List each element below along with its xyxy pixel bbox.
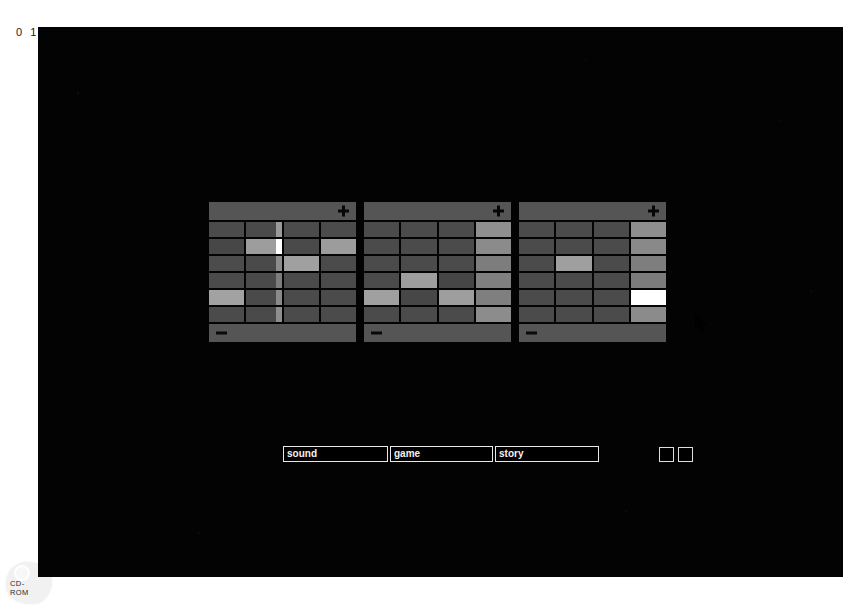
grid-cell[interactable] — [401, 290, 436, 305]
grid-cell[interactable] — [321, 256, 356, 271]
grid-cell[interactable] — [321, 307, 356, 322]
grid-cell[interactable] — [209, 273, 244, 288]
grid-cell[interactable] — [246, 256, 281, 271]
grid-cell[interactable] — [321, 273, 356, 288]
grid-cell-selected[interactable] — [631, 290, 666, 305]
panel-1 — [209, 202, 356, 342]
grid-cell[interactable] — [439, 290, 474, 305]
panel-2-header[interactable] — [364, 202, 511, 220]
grid-cell[interactable] — [284, 290, 319, 305]
panel-2 — [364, 202, 511, 342]
grid-cell[interactable] — [631, 222, 666, 237]
grid-cell[interactable] — [519, 256, 554, 271]
text-field-story[interactable]: story — [495, 446, 599, 462]
grid-cell[interactable] — [284, 256, 319, 271]
grid-cell[interactable] — [209, 307, 244, 322]
grid-cell[interactable] — [519, 239, 554, 254]
panel-1-grid — [209, 222, 356, 322]
grid-cell[interactable] — [284, 222, 319, 237]
grid-cell[interactable] — [519, 273, 554, 288]
grid-cell[interactable] — [631, 273, 666, 288]
grid-cell[interactable] — [594, 222, 629, 237]
grid-cell[interactable] — [594, 290, 629, 305]
text-field-sound[interactable]: sound — [283, 446, 388, 462]
grid-cell[interactable] — [284, 273, 319, 288]
minus-icon[interactable] — [526, 332, 537, 335]
grid-cell[interactable] — [321, 290, 356, 305]
grid-cell[interactable] — [364, 273, 399, 288]
grid-cell[interactable] — [321, 239, 356, 254]
grid-cell[interactable] — [631, 256, 666, 271]
minus-icon[interactable] — [216, 332, 227, 335]
grid-cell[interactable] — [401, 256, 436, 271]
toggle-group — [659, 447, 693, 462]
grid-cell[interactable] — [246, 290, 281, 305]
grid-cell[interactable] — [519, 290, 554, 305]
grid-cell[interactable] — [364, 222, 399, 237]
grid-cell[interactable] — [476, 222, 511, 237]
minus-icon[interactable] — [371, 332, 382, 335]
grid-cell[interactable] — [246, 307, 281, 322]
grid-cell-level-tip — [276, 307, 282, 322]
plus-icon[interactable] — [338, 206, 349, 217]
toggle-box-1[interactable] — [659, 447, 674, 462]
grid-cell[interactable] — [209, 256, 244, 271]
grid-cell[interactable] — [631, 307, 666, 322]
grid-row — [364, 307, 511, 322]
grid-cell[interactable] — [439, 256, 474, 271]
panel-1-header[interactable] — [209, 202, 356, 220]
plus-icon[interactable] — [648, 206, 659, 217]
grid-cell[interactable] — [209, 239, 244, 254]
grid-cell[interactable] — [556, 256, 591, 271]
text-field-game[interactable]: game — [390, 446, 493, 462]
grid-cell[interactable] — [209, 222, 244, 237]
panel-1-footer[interactable] — [209, 324, 356, 342]
grid-cell[interactable] — [209, 290, 244, 305]
grid-cell[interactable] — [476, 307, 511, 322]
grid-cell[interactable] — [284, 307, 319, 322]
grid-cell[interactable] — [476, 256, 511, 271]
grid-cell[interactable] — [631, 239, 666, 254]
grid-cell[interactable] — [364, 307, 399, 322]
grid-cell[interactable] — [364, 290, 399, 305]
grid-cell[interactable] — [594, 256, 629, 271]
grid-cell[interactable] — [476, 290, 511, 305]
grid-row — [209, 222, 356, 237]
grid-cell[interactable] — [439, 307, 474, 322]
grid-cell[interactable] — [556, 273, 591, 288]
grid-cell[interactable] — [401, 239, 436, 254]
panel-2-footer[interactable] — [364, 324, 511, 342]
grid-row — [364, 222, 511, 237]
grid-cell[interactable] — [246, 239, 281, 254]
toggle-box-2[interactable] — [678, 447, 693, 462]
grid-cell[interactable] — [364, 239, 399, 254]
grid-cell[interactable] — [519, 307, 554, 322]
grid-cell[interactable] — [246, 273, 281, 288]
grid-cell[interactable] — [556, 307, 591, 322]
grid-cell[interactable] — [321, 222, 356, 237]
grid-cell[interactable] — [364, 256, 399, 271]
grid-cell[interactable] — [556, 239, 591, 254]
grid-cell[interactable] — [439, 273, 474, 288]
panel-3-header[interactable] — [519, 202, 666, 220]
plus-icon[interactable] — [493, 206, 504, 217]
panel-3-footer[interactable] — [519, 324, 666, 342]
grid-cell[interactable] — [246, 222, 281, 237]
grid-cell[interactable] — [401, 307, 436, 322]
grid-cell[interactable] — [284, 239, 319, 254]
grid-cell[interactable] — [519, 222, 554, 237]
grid-cell[interactable] — [439, 222, 474, 237]
grid-cell[interactable] — [401, 222, 436, 237]
grid-cell[interactable] — [594, 273, 629, 288]
grid-cell-level-tip — [276, 256, 282, 271]
grid-cell[interactable] — [476, 273, 511, 288]
grid-row — [209, 256, 356, 271]
grid-cell[interactable] — [556, 290, 591, 305]
grid-cell[interactable] — [439, 239, 474, 254]
grid-cell[interactable] — [556, 222, 591, 237]
grid-cell[interactable] — [401, 273, 436, 288]
grid-cell[interactable] — [594, 239, 629, 254]
grid-cell[interactable] — [476, 239, 511, 254]
panel-row — [209, 202, 666, 342]
grid-cell[interactable] — [594, 307, 629, 322]
